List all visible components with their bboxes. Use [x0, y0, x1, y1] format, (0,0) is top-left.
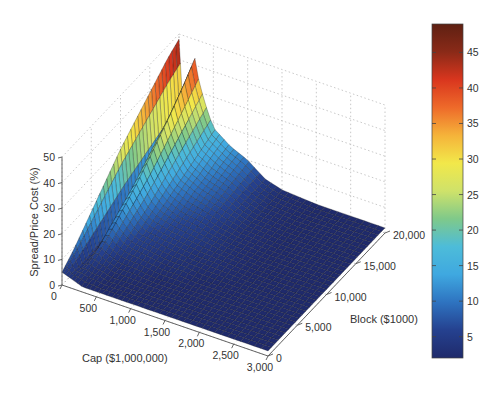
x-axis-label: Cap ($1,000,000) — [82, 352, 168, 364]
z-axis-label: Spread/Price Cost (%) — [28, 167, 40, 276]
y-tick-label: 20,000 — [393, 229, 425, 241]
x-tick-label: 1,000 — [110, 314, 136, 326]
colorbar-tick-label: 40 — [467, 82, 479, 94]
colorbar-tick-label: 35 — [467, 117, 479, 129]
x-tick-label: 2,500 — [213, 349, 239, 361]
y-tick-label: 0 — [276, 352, 282, 364]
colorbar-tick-label: 5 — [467, 331, 473, 343]
x-tick-label: 2,000 — [178, 337, 204, 349]
z-tick-label: 20 — [43, 228, 55, 240]
x-tick-label: 500 — [80, 302, 98, 314]
y-tick-label: 15,000 — [364, 260, 396, 272]
surface-mesh — [62, 39, 385, 351]
y-axis-label: Block ($1000) — [350, 313, 418, 325]
colorbar-tick-label: 25 — [467, 189, 479, 201]
colorbar-tick-label: 15 — [467, 260, 479, 272]
z-tick-label: 50 — [43, 151, 55, 163]
z-tick-label: 30 — [43, 202, 55, 214]
colorbar-tick-label: 30 — [467, 153, 479, 165]
colorbar-tick-label: 10 — [467, 295, 479, 307]
surface-plot: 0102030405005001,0001,5002,0002,5003,000… — [0, 0, 503, 396]
x-tick-label: 1,500 — [144, 326, 170, 338]
y-tick-label: 10,000 — [335, 291, 367, 303]
z-tick-label: 40 — [43, 177, 55, 189]
colorbar-gradient — [432, 24, 463, 358]
x-tick-label: 3,000 — [247, 361, 273, 373]
colorbar-tick-label: 20 — [467, 224, 479, 236]
x-tick-label: 0 — [51, 290, 57, 302]
y-tick-label: 5,000 — [305, 321, 331, 333]
z-tick-label: 10 — [43, 253, 55, 265]
colorbar: 51015202530354045 — [432, 24, 479, 358]
colorbar-tick-label: 45 — [467, 46, 479, 58]
